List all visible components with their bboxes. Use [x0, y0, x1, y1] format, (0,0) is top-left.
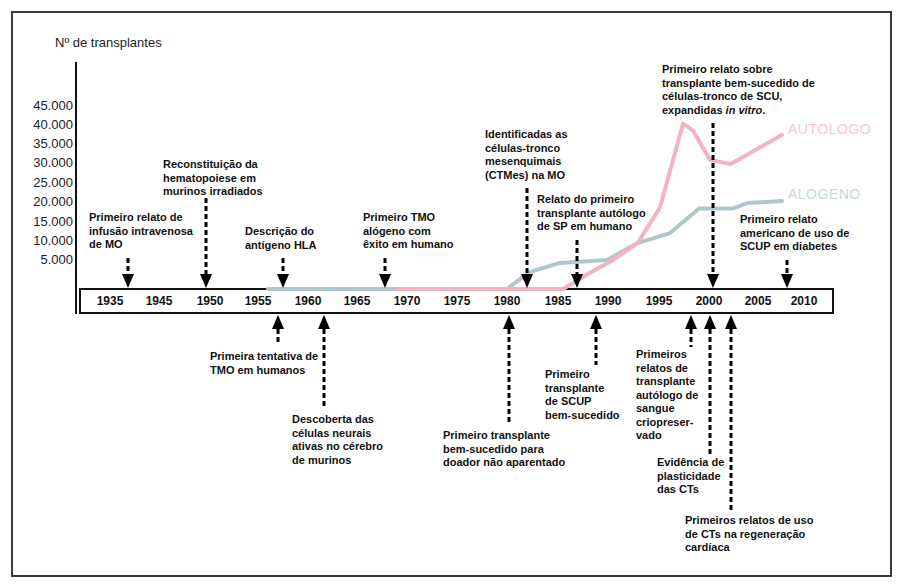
annotation-line: (CTMes) na MO: [485, 169, 568, 183]
y-tick-label: 15.000: [18, 215, 73, 229]
annotation-line: Primeiro relato sobre: [662, 63, 815, 77]
year-label: 1955: [236, 294, 280, 308]
annotation-line: Identificadas as: [485, 128, 568, 142]
annotation-antigeno-hla: Descrição do antígeno HLA: [245, 225, 317, 252]
annotation-line: expandidas in vitro.: [662, 104, 815, 118]
year-label: 1950: [188, 294, 232, 308]
annotation-line: células-tronco de SCU,: [662, 90, 815, 104]
annotation-line: Primeiro TMO: [363, 211, 453, 225]
annotation-line: hematopoiese em: [163, 172, 263, 186]
year-label: 1945: [137, 294, 181, 308]
annotation-line: SCUP em diabetes: [740, 240, 849, 254]
annotation-line: alógeno com: [363, 225, 453, 239]
annotation-line: de SP em humano: [537, 220, 646, 234]
annotation-line: murinos irradiados: [163, 185, 263, 199]
year-label: 1965: [335, 294, 379, 308]
y-tick-label: 30.000: [18, 156, 73, 170]
annotation-primeira-tentativa-tmo: Primeira tentativa de TMO em humanos: [210, 350, 318, 377]
annotation-doador-nao-aparentado: Primeiro transplante bem-sucedido para d…: [443, 429, 565, 470]
annotation-line: de murinos: [292, 454, 383, 468]
annotation-line: Primeiro transplante: [443, 429, 565, 443]
year-label: 1980: [485, 294, 529, 308]
arrowhead-down-icon: [122, 274, 793, 288]
annotation-line: transplante bem-sucedido de: [662, 77, 815, 91]
annotation-line: bem-sucedido: [545, 409, 620, 423]
series-label-alogeno: ALOGENO: [788, 186, 861, 202]
annotation-infusao-mo: Primeiro relato de infusão intravenosa d…: [89, 211, 193, 252]
annotation-line: Primeiro: [545, 368, 620, 382]
annotation-sangue-criopreservado: Primeiros relatos de transplante autólog…: [636, 348, 698, 443]
annotation-line: cardíaca: [685, 541, 813, 555]
annotation-line: Primeiro relato: [740, 213, 849, 227]
y-tick-label: 35.000: [18, 137, 73, 151]
annotation-line: sangue: [636, 402, 698, 416]
annotation-line: vado: [636, 429, 698, 443]
annotation-line: infusão intravenosa: [89, 225, 193, 239]
y-axis-title: Nº de transplantes: [55, 35, 162, 50]
annotation-line: das CTs: [657, 483, 724, 497]
annotation-line: antígeno HLA: [245, 239, 317, 253]
annotation-line: Relato do primeiro: [537, 193, 646, 207]
year-label: 2000: [687, 294, 731, 308]
annotation-celulas-neurais: Descoberta das células neurais ativas no…: [292, 413, 383, 467]
annotation-line: autólogo de: [636, 389, 698, 403]
annotation-line: Reconstituição da: [163, 158, 263, 172]
annotation-line: células-tronco: [485, 142, 568, 156]
annotation-regeneracao-cardiaca: Primeiros relatos de uso de CTs na regen…: [685, 514, 813, 555]
annotation-ctmes: Identificadas as células-tronco mesenqui…: [485, 128, 568, 182]
annotation-line: Primeiros relatos de uso: [685, 514, 813, 528]
y-tick-label: 20.000: [18, 195, 73, 209]
annotation-line: transplante: [636, 375, 698, 389]
year-label: 2005: [736, 294, 780, 308]
arrow-down-icon: [128, 123, 787, 275]
annotation-line: transplante autólogo: [537, 207, 646, 221]
year-label: 1990: [586, 294, 630, 308]
annotation-line: americano de uso de: [740, 227, 849, 241]
annotation-primeiro-scup: Primeiro transplante de SCUP bem-sucedid…: [545, 368, 620, 422]
annotation-line: transplante: [545, 382, 620, 396]
annotation-line: Primeira tentativa de: [210, 350, 318, 364]
annotation-line: TMO em humanos: [210, 364, 318, 378]
annotation-line: Descrição do: [245, 225, 317, 239]
annotation-scup-diabetes: Primeiro relato americano de uso de SCUP…: [740, 213, 849, 254]
year-label: 2010: [782, 294, 826, 308]
year-label: 1985: [536, 294, 580, 308]
figure-timeline-transplants: Nº de transplantes 45.000 40.000 35.000 …: [0, 0, 901, 584]
arrowhead-up-icon: [272, 315, 737, 329]
y-tick-label: 40.000: [18, 118, 73, 132]
annotation-line: Primeiro relato de: [89, 211, 193, 225]
annotation-text: .: [762, 104, 765, 116]
annotation-line: de MO: [89, 238, 193, 252]
annotation-primeiro-tmo-alogeno: Primeiro TMO alógeno com êxito em humano: [363, 211, 453, 252]
y-tick-label: 5.000: [18, 253, 73, 267]
annotation-line: células neurais: [292, 427, 383, 441]
annotation-italic-text: in vitro: [726, 104, 763, 116]
year-label: 1960: [286, 294, 330, 308]
annotation-line: êxito em humano: [363, 238, 453, 252]
y-tick-label: 25.000: [18, 176, 73, 190]
annotation-line: de SCUP: [545, 395, 620, 409]
annotation-plasticidade-cts: Evidência de plasticidade das CTs: [657, 456, 724, 497]
annotation-line: ativas no cérebro: [292, 440, 383, 454]
annotation-line: plasticidade: [657, 470, 724, 484]
annotation-line: criopreser-: [636, 416, 698, 430]
year-label: 1975: [435, 294, 479, 308]
year-label: 1970: [385, 294, 429, 308]
annotation-line: de CTs na regeneração: [685, 528, 813, 542]
annotation-line: mesenquimais: [485, 155, 568, 169]
annotation-scu-in-vitro: Primeiro relato sobre transplante bem-su…: [662, 63, 815, 117]
annotation-line: bem-sucedido para: [443, 443, 565, 457]
series-label-autologo: AUTOLOGO: [788, 121, 871, 137]
year-label: 1935: [88, 294, 132, 308]
annotation-line: Descoberta das: [292, 413, 383, 427]
annotation-text: expandidas: [662, 104, 726, 116]
annotation-line: doador não aparentado: [443, 456, 565, 470]
year-label: 1995: [637, 294, 681, 308]
y-tick-label: 45.000: [18, 99, 73, 113]
annotation-line: Evidência de: [657, 456, 724, 470]
y-tick-label: 10.000: [18, 234, 73, 248]
annotation-line: relatos de: [636, 362, 698, 376]
annotation-autologo-sp: Relato do primeiro transplante autólogo …: [537, 193, 646, 234]
annotation-line: Primeiros: [636, 348, 698, 362]
annotation-reconstituicao-hematopoiese: Reconstituição da hematopoiese em murino…: [163, 158, 263, 199]
